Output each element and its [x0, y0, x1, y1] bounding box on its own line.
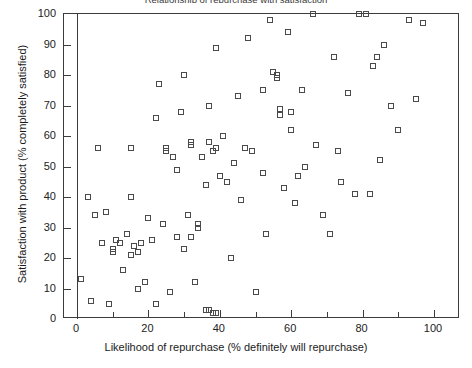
y-tick-major [64, 258, 71, 259]
scatter-plot-figure: Relationship of repurchase with satisfac… [0, 0, 472, 368]
data-point [277, 112, 283, 118]
data-point [95, 145, 101, 151]
data-point [131, 243, 137, 249]
y-tick-label: 0 [22, 312, 56, 324]
x-tick-minor [256, 312, 257, 317]
x-tick-minor [398, 312, 399, 317]
data-point [206, 139, 212, 145]
data-point [138, 240, 144, 246]
x-tick-major [220, 310, 221, 317]
y-tick-label: 70 [22, 99, 56, 111]
data-point [352, 191, 358, 197]
y-tick-label: 10 [22, 282, 56, 294]
y-tick-major [64, 228, 71, 229]
data-point [124, 231, 130, 237]
x-tick-major [148, 310, 149, 317]
y-tick-major [64, 197, 71, 198]
data-point [128, 145, 134, 151]
x-tick-major [291, 310, 292, 317]
data-point [153, 115, 159, 121]
plot-area [63, 13, 459, 318]
y-tick-major [64, 289, 71, 290]
data-point [356, 11, 362, 17]
data-point [260, 87, 266, 93]
data-point [281, 185, 287, 191]
data-point [120, 267, 126, 273]
data-point [285, 29, 291, 35]
y-tick-major [64, 106, 71, 107]
data-point [231, 160, 237, 166]
data-point [85, 194, 91, 200]
data-point [335, 148, 341, 154]
data-point [381, 42, 387, 48]
data-point [327, 231, 333, 237]
data-point [195, 221, 201, 227]
data-point [377, 157, 383, 163]
x-tick-label: 80 [342, 322, 382, 334]
data-point [99, 240, 105, 246]
data-point [345, 90, 351, 96]
data-point [235, 93, 241, 99]
data-point [88, 298, 94, 304]
data-point [192, 279, 198, 285]
x-zero-axis-line [77, 14, 78, 319]
data-point [299, 87, 305, 93]
data-point [170, 154, 176, 160]
x-tick-label: 20 [127, 322, 167, 334]
data-point [338, 179, 344, 185]
y-tick-label: 100 [22, 7, 56, 19]
data-point [310, 11, 316, 17]
data-point [288, 127, 294, 133]
x-tick-label: 100 [413, 322, 453, 334]
data-point [238, 197, 244, 203]
x-tick-label: 0 [56, 322, 96, 334]
y-tick-label: 50 [22, 160, 56, 172]
data-point [420, 20, 426, 26]
data-point [274, 72, 280, 78]
y-tick-label: 20 [22, 251, 56, 263]
data-point [245, 35, 251, 41]
data-point [295, 173, 301, 179]
data-point [374, 54, 380, 60]
data-point [117, 240, 123, 246]
y-tick-label: 80 [22, 68, 56, 80]
data-point [302, 164, 308, 170]
y-tick-label: 40 [22, 190, 56, 202]
data-point [163, 145, 169, 151]
data-point [185, 212, 191, 218]
data-point [145, 215, 151, 221]
data-point [178, 109, 184, 115]
data-point [260, 170, 266, 176]
x-axis-title: Likelihood of repurchase (% definitely w… [0, 341, 472, 353]
data-point [224, 179, 230, 185]
y-tick-major [64, 75, 71, 76]
x-tick-label: 60 [270, 322, 310, 334]
data-point [149, 237, 155, 243]
x-tick-minor [113, 312, 114, 317]
data-point [167, 289, 173, 295]
y-tick-label: 30 [22, 221, 56, 233]
data-point [106, 301, 112, 307]
data-point [370, 63, 376, 69]
y-tick-major [64, 136, 71, 137]
data-point [142, 279, 148, 285]
data-point [313, 142, 319, 148]
data-point [160, 221, 166, 227]
data-point [267, 17, 273, 23]
data-point [213, 310, 219, 316]
data-point [135, 249, 141, 255]
data-point [110, 249, 116, 255]
data-point [263, 231, 269, 237]
data-point [156, 81, 162, 87]
data-point [181, 72, 187, 78]
chart-title: Relationship of repurchase with satisfac… [0, 0, 472, 3]
data-point [406, 17, 412, 23]
x-tick-major [77, 310, 78, 317]
x-tick-minor [184, 312, 185, 317]
y-tick-major [64, 45, 71, 46]
data-point [413, 96, 419, 102]
data-point [292, 200, 298, 206]
data-point [153, 301, 159, 307]
y-tick-label: 60 [22, 129, 56, 141]
data-point [228, 255, 234, 261]
